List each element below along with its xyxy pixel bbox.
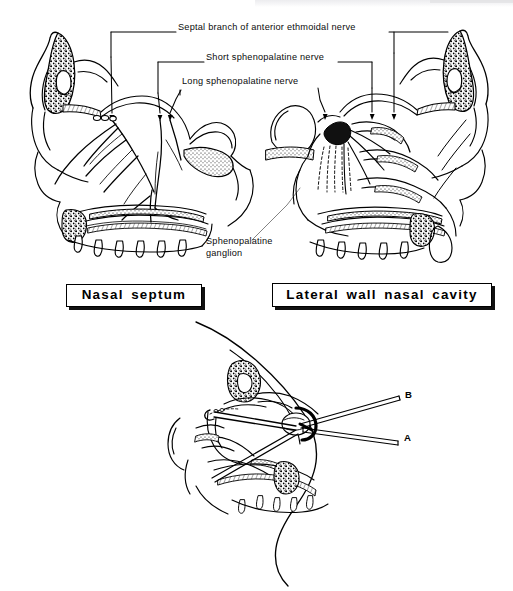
lateral-wall-illustration <box>266 30 488 262</box>
caption-lateral-wall-nasal-cavity-text: Lateral wall nasal cavity <box>286 288 477 302</box>
caption-nasal-septum: Nasal septum <box>66 284 202 307</box>
label-septal-branch-of-anterior-ethmoidal-nerve: Septal branch of anterior ethmoidal nerv… <box>178 23 356 33</box>
label-sphenopalatine-ganglion-line2: ganglion <box>206 248 273 260</box>
lower-sagittal-illustration <box>168 322 400 586</box>
teeth-row-right <box>316 240 408 259</box>
label-short-sphenopalatine-nerve: Short sphenopalatine nerve <box>206 53 324 63</box>
label-approach-a: A <box>404 432 411 443</box>
label-long-sphenopalatine-nerve: Long sphenopalatine nerve <box>182 77 298 87</box>
teeth-row-lower <box>238 496 313 513</box>
label-sphenopalatine-ganglion-line1: Sphenopalatine <box>206 236 273 248</box>
needle-applicator-a <box>303 428 398 445</box>
anatomical-figure-plate: Septal branch of anterior ethmoidal nerv… <box>0 0 513 591</box>
caption-lateral-wall-nasal-cavity: Lateral wall nasal cavity <box>272 283 492 307</box>
label-approach-b: B <box>405 389 412 400</box>
nasal-septum-illustration <box>30 32 253 257</box>
label-sphenopalatine-ganglion: Sphenopalatine ganglion <box>206 236 273 260</box>
caption-nasal-septum-text: Nasal septum <box>82 288 187 302</box>
